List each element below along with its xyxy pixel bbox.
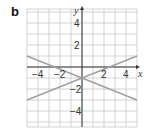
- y-axis-arrow-icon: [80, 6, 84, 10]
- x-tick-label: 2: [101, 69, 107, 80]
- y-axis-label: y: [73, 5, 79, 16]
- y-tick-label: 4: [74, 18, 80, 29]
- y-tick-label: −4: [70, 106, 82, 117]
- x-tick-label: −2: [54, 69, 66, 80]
- axes: [27, 6, 140, 127]
- y-tick-label: 2: [74, 40, 80, 51]
- x-tick-label: −4: [32, 69, 44, 80]
- y-tick-label: −2: [70, 84, 82, 95]
- x-axis-label: x: [137, 68, 143, 79]
- coordinate-plot: −4−22442−2−4xy: [0, 0, 144, 129]
- x-tick-label: 4: [123, 69, 129, 80]
